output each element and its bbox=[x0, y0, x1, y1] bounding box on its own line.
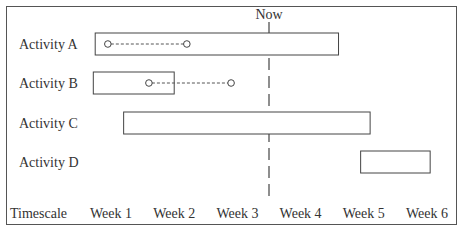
activity-bar bbox=[361, 151, 431, 173]
activity-bar bbox=[124, 112, 370, 134]
tick-label: Week 1 bbox=[90, 206, 132, 221]
activity-label: Activity C bbox=[19, 116, 78, 131]
tick-label: Week 6 bbox=[406, 206, 448, 221]
now-label: Now bbox=[255, 7, 283, 22]
float-start-node bbox=[105, 41, 112, 48]
activity-row: Activity A bbox=[19, 33, 339, 55]
activity-row: Activity C bbox=[19, 112, 370, 134]
float-start-node bbox=[146, 80, 153, 87]
float-end-node bbox=[184, 41, 191, 48]
gantt-chart: Now Activity AActivity BActivity CActivi… bbox=[0, 0, 463, 230]
tick-label: Week 5 bbox=[343, 206, 385, 221]
tick-label: Week 4 bbox=[280, 206, 322, 221]
activity-row: Activity B bbox=[19, 72, 234, 94]
tick-label: Week 2 bbox=[153, 206, 195, 221]
timescale-label: Timescale bbox=[10, 206, 67, 221]
float-end-node bbox=[228, 80, 235, 87]
activity-row: Activity D bbox=[19, 151, 430, 173]
tick-label: Week 3 bbox=[216, 206, 258, 221]
activity-label: Activity B bbox=[19, 76, 78, 91]
activity-label: Activity D bbox=[19, 155, 79, 170]
activity-label: Activity A bbox=[19, 37, 79, 52]
